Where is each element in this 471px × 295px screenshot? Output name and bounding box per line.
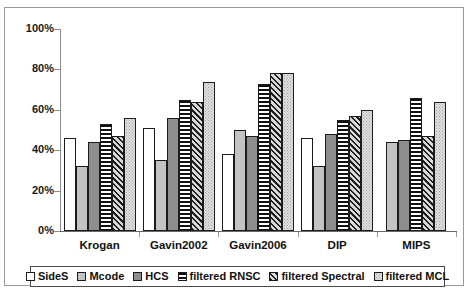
legend-label: filtered MCL: [386, 271, 450, 282]
legend-item[interactable]: filtered RNSC: [178, 271, 261, 282]
legend-label: filtered Spectral: [281, 271, 364, 282]
y-axis-tick-label: 60%: [8, 104, 54, 115]
bar[interactable]: [422, 136, 434, 231]
bar-group: [298, 29, 377, 231]
legend-swatch-icon: [269, 272, 278, 281]
y-axis-tick-label: 20%: [8, 185, 54, 196]
bar[interactable]: [88, 142, 100, 231]
bar[interactable]: [179, 100, 191, 231]
legend-swatch-icon: [178, 272, 187, 281]
bar-group-bars: [218, 29, 297, 231]
bar[interactable]: [64, 138, 76, 231]
y-axis-tick-label: 100%: [8, 23, 54, 34]
bar[interactable]: [222, 154, 234, 231]
legend-swatch-icon: [26, 272, 35, 281]
bar[interactable]: [191, 102, 203, 231]
bar-group: [218, 29, 297, 231]
bar[interactable]: [246, 136, 258, 231]
bar-group-bars: [377, 29, 456, 231]
bar[interactable]: [100, 124, 112, 231]
bar[interactable]: [313, 166, 325, 231]
bar[interactable]: [386, 142, 398, 231]
bar[interactable]: [112, 136, 124, 231]
bar-group-bars: [139, 29, 218, 231]
bar[interactable]: [325, 134, 337, 231]
legend-label: Mcode: [89, 271, 124, 282]
x-axis-tick: [377, 232, 378, 237]
bar[interactable]: [167, 118, 179, 231]
bar[interactable]: [76, 166, 88, 231]
bar[interactable]: [361, 110, 373, 231]
bar[interactable]: [203, 82, 215, 231]
y-axis-labels: 100%80%60%40%20%0%: [5, 8, 54, 295]
legend-swatch-icon: [374, 272, 383, 281]
bar[interactable]: [301, 138, 313, 231]
x-axis-category-label: Gavin2002: [139, 240, 218, 252]
legend-item[interactable]: Mcode: [77, 271, 124, 282]
y-axis-tick-label: 80%: [8, 63, 54, 74]
x-axis-tick: [218, 232, 219, 237]
x-axis-category-label: Krogan: [60, 240, 139, 252]
x-axis-category-label: DIP: [298, 240, 377, 252]
bar-group-bars: [60, 29, 139, 231]
bar[interactable]: [155, 160, 167, 231]
bar-group: [377, 29, 456, 231]
legend-swatch-icon: [133, 272, 142, 281]
x-axis-tick: [456, 232, 457, 237]
x-axis-line: [60, 231, 457, 232]
x-axis-tick: [298, 232, 299, 237]
bar[interactable]: [234, 130, 246, 231]
chart-frame: 100%80%60%40%20%0% SideSMcodeHCSfiltered…: [4, 7, 464, 286]
x-axis-tick: [139, 232, 140, 237]
legend-label: HCS: [145, 271, 168, 282]
bar[interactable]: [398, 140, 410, 231]
y-axis-tick-label: 0%: [8, 225, 54, 236]
bar-group: [139, 29, 218, 231]
bar[interactable]: [337, 120, 349, 231]
legend-label: filtered RNSC: [190, 271, 261, 282]
legend-label: SideS: [38, 271, 69, 282]
legend-item[interactable]: filtered Spectral: [269, 271, 364, 282]
bar[interactable]: [282, 73, 294, 231]
bar-group-bars: [298, 29, 377, 231]
legend-swatch-icon: [77, 272, 86, 281]
bar[interactable]: [434, 102, 446, 231]
bar[interactable]: [270, 73, 282, 231]
x-axis-category-label: MIPS: [377, 240, 456, 252]
chart-legend: SideSMcodeHCSfiltered RNSCfiltered Spect…: [30, 266, 445, 287]
bar[interactable]: [143, 128, 155, 231]
legend-item[interactable]: SideS: [26, 271, 69, 282]
legend-item[interactable]: HCS: [133, 271, 168, 282]
x-axis-category-label: Gavin2006: [218, 240, 297, 252]
y-axis-tick: [54, 231, 60, 232]
bar-group: [60, 29, 139, 231]
bar[interactable]: [124, 118, 136, 231]
bar[interactable]: [349, 116, 361, 231]
y-axis-tick-label: 40%: [8, 144, 54, 155]
bar[interactable]: [258, 84, 270, 231]
bar[interactable]: [410, 98, 422, 231]
legend-item[interactable]: filtered MCL: [374, 271, 450, 282]
